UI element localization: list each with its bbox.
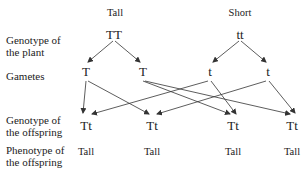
arrow-T1-to-off2 [88,81,149,114]
arrow-t1-to-off1 [92,81,208,114]
arrow-t1-to-off3 [211,81,236,114]
arrow-TT-to-T2 [115,41,140,62]
arrow-tt-to-t1 [213,41,239,62]
arrow-t2-to-off4 [269,81,295,113]
arrow-t2-to-off2 [157,81,266,114]
arrow-TT-to-T1 [88,41,113,62]
cross-arrows [0,0,305,175]
arrow-tt-to-t2 [241,41,266,62]
arrow-T1-to-off1 [83,81,86,113]
